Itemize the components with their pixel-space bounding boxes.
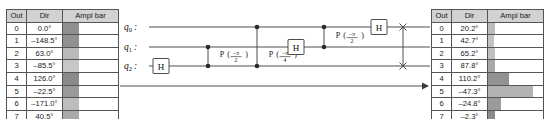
- cell-dir: –47.3°: [452, 85, 488, 98]
- cphase-3-control-dot-q0[interactable]: [322, 25, 327, 30]
- amplitude-bar: [63, 48, 79, 60]
- table-row: 740.5°: [7, 110, 119, 119]
- column-header-dir: Dir: [452, 10, 488, 23]
- output-table-body: 020.2°142.7°265.2°387.8°4110.2°5–47.3°6–…: [432, 22, 544, 119]
- table-row: 020.2°: [432, 22, 544, 35]
- cell-ampl-bar: [63, 60, 119, 73]
- cell-ampl-bar: [63, 22, 119, 35]
- cell-out: 6: [432, 98, 452, 111]
- cell-dir: –148.5°: [27, 35, 63, 48]
- cphase-1-control-dot-q1[interactable]: [206, 45, 211, 50]
- cell-dir: 20.2°: [452, 22, 488, 35]
- cell-ampl-bar: [63, 85, 119, 98]
- cell-ampl-bar: [488, 98, 544, 111]
- cell-out: 0: [432, 22, 452, 35]
- table-row: 7–2.3°: [432, 110, 544, 119]
- cell-dir: 40.5°: [27, 110, 63, 119]
- amplitude-bar: [488, 60, 495, 72]
- cphase-2-paren-open: (: [276, 50, 279, 59]
- cell-out: 0: [7, 22, 27, 35]
- table-row: 3–85.5°: [7, 60, 119, 73]
- amplitude-bar: [63, 98, 79, 110]
- qubit-label-q1: q1:: [124, 42, 137, 53]
- cell-out: 5: [7, 85, 27, 98]
- amplitude-bar: [63, 23, 79, 35]
- figure-root: Out Dir Ampl bar 00.0°1–148.5°263.0°3–85…: [0, 0, 549, 119]
- column-header-ampl-bar: Ampl bar: [488, 10, 544, 23]
- table-row: 387.8°: [432, 60, 544, 73]
- cell-out: 1: [7, 35, 27, 48]
- table-row: 6–24.8°: [432, 98, 544, 111]
- table-header-row: Out Dir Ampl bar: [7, 10, 119, 23]
- table-row: 265.2°: [432, 47, 544, 60]
- table-row: 5–22.5°: [7, 85, 119, 98]
- cell-ampl-bar: [63, 72, 119, 85]
- cphase-2-target-dot-q2[interactable]: [255, 64, 260, 69]
- cphase-3-p: P: [336, 31, 341, 40]
- cphase-1-target-dot-q2[interactable]: [206, 64, 211, 69]
- cphase-3-numerator: −π: [349, 31, 355, 37]
- cphase-2-numerator: −π: [282, 50, 288, 56]
- cphase-3-paren-open: (: [343, 31, 346, 40]
- amplitude-bar: [63, 73, 79, 85]
- cell-out: 3: [7, 60, 27, 73]
- amplitude-bar: [488, 23, 495, 35]
- cell-out: 4: [432, 72, 452, 85]
- output-amplitude-table: Out Dir Ampl bar 020.2°142.7°265.2°387.8…: [431, 9, 544, 119]
- cell-out: 4: [7, 72, 27, 85]
- cphase-1-paren-close: ): [245, 50, 248, 59]
- table-row: 4126.0°: [7, 72, 119, 85]
- column-header-ampl-bar: Ampl bar: [63, 10, 119, 23]
- column-header-out: Out: [7, 10, 27, 23]
- time-direction-arrow: [120, 83, 429, 90]
- amplitude-bar: [63, 111, 79, 119]
- cell-dir: 63.0°: [27, 47, 63, 60]
- cell-ampl-bar: [488, 22, 544, 35]
- cell-ampl-bar: [488, 85, 544, 98]
- cell-dir: 42.7°: [452, 35, 488, 48]
- amplitude-bar: [63, 35, 79, 47]
- cphase-1-paren-open: (: [227, 50, 230, 59]
- cell-dir: 65.2°: [452, 47, 488, 60]
- cell-ampl-bar: [488, 47, 544, 60]
- table-row: 6–171.0°: [7, 98, 119, 111]
- cell-out: 1: [432, 35, 452, 48]
- cell-ampl-bar: [63, 98, 119, 111]
- cell-dir: –171.0°: [27, 98, 63, 111]
- cell-ampl-bar: [488, 35, 544, 48]
- cphase-1-p: P: [220, 50, 225, 59]
- cphase-2-p: P: [269, 50, 274, 59]
- input-amplitude-table: Out Dir Ampl bar 00.0°1–148.5°263.0°3–85…: [6, 9, 119, 119]
- cell-dir: –2.3°: [452, 110, 488, 119]
- table-row: 00.0°: [7, 22, 119, 35]
- amplitude-bar: [63, 86, 79, 98]
- cell-ampl-bar: [488, 60, 544, 73]
- cphase-3-target-dot-q1[interactable]: [322, 45, 327, 50]
- cell-ampl-bar: [488, 110, 544, 119]
- cell-out: 3: [432, 60, 452, 73]
- cell-dir: 126.0°: [27, 72, 63, 85]
- cphase-1-denominator: 2: [235, 57, 238, 63]
- table-row: 263.0°: [7, 47, 119, 60]
- cphase-1-phase-label: P ( −π 2 ): [220, 50, 248, 63]
- cell-ampl-bar: [488, 72, 544, 85]
- cell-dir: 0.0°: [27, 22, 63, 35]
- cphase-3-paren-close: ): [361, 31, 364, 40]
- cphase-3-phase-label: P ( −π 2 ): [336, 31, 364, 44]
- amplitude-bar: [488, 35, 494, 47]
- cell-dir: –24.8°: [452, 98, 488, 111]
- h-gate-q2-label: H: [158, 62, 165, 72]
- cell-dir: 87.8°: [452, 60, 488, 73]
- cell-out: 7: [432, 110, 452, 119]
- cell-dir: –85.5°: [27, 60, 63, 73]
- circuit-svg: q0: q1: q2: H P ( −π 2 ): [118, 0, 430, 119]
- cell-out: 7: [7, 110, 27, 119]
- cphase-2-control-dot-q0[interactable]: [255, 25, 260, 30]
- h-gate-q1-label: H: [293, 43, 300, 53]
- cell-ampl-bar: [63, 47, 119, 60]
- cell-dir: –22.5°: [27, 85, 63, 98]
- input-table-body: 00.0°1–148.5°263.0°3–85.5°4126.0°5–22.5°…: [7, 22, 119, 119]
- cell-out: 6: [7, 98, 27, 111]
- amplitude-bar: [63, 60, 79, 72]
- column-header-out: Out: [432, 10, 452, 23]
